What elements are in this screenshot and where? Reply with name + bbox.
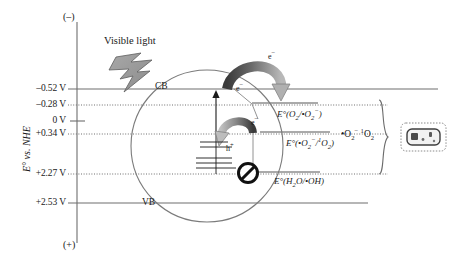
- redox-label-superoxide-singlet: E°(•O2−/1O2): [286, 137, 334, 150]
- figure-canvas: (–) (+) E° vs. NHE –0.52 V –0.28 V 0 V +…: [0, 0, 450, 263]
- axis-top-sign: (–): [63, 12, 75, 22]
- tick-label-1: –0.28 V: [18, 100, 66, 110]
- electron-label-cb: e−: [236, 82, 243, 93]
- redox-label-o2-superoxide: E°(O2/•O2−): [277, 108, 322, 121]
- electron-label-top: e−: [268, 50, 275, 61]
- tick-label-2: 0 V: [18, 116, 66, 126]
- lightning-bolt-icon: [109, 53, 152, 92]
- hole-label: h+: [226, 142, 234, 153]
- diagram-vector-layer: [0, 0, 450, 263]
- conduction-band-label: CB: [155, 82, 168, 92]
- bacterium-cell-icon: [401, 123, 446, 151]
- redox-label-water-hydroxyl: E°(H2O/•OH): [274, 177, 324, 188]
- products-label: •O2− 1O2: [341, 128, 374, 142]
- prohibition-sign-icon: [239, 164, 258, 183]
- tick-label-4: +2.27 V: [18, 169, 66, 179]
- tick-label-3: +0.34 V: [18, 129, 66, 139]
- visible-light-label: Visible light: [104, 36, 156, 47]
- valence-band-label: VB: [142, 198, 155, 208]
- tick-label-5: +2.53 V: [18, 198, 66, 208]
- electron-label-mid: e−: [251, 116, 258, 127]
- tick-label-0: –0.52 V: [18, 84, 66, 94]
- axis-bottom-sign: (+): [63, 240, 75, 250]
- products-bracket: [379, 100, 388, 174]
